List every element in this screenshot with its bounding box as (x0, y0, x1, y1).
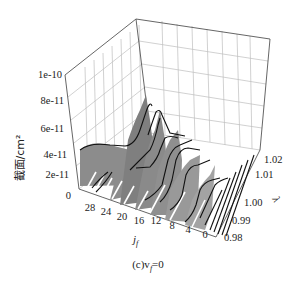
surface-plot: 1e-10 8e-11 6e-11 4e-11 2e-11 0 截面/cm² 2… (0, 0, 296, 285)
svg-text:8: 8 (169, 220, 174, 231)
svg-text:0: 0 (202, 229, 207, 240)
svg-text:6e-11: 6e-11 (40, 123, 64, 134)
x-axis-label: jf (131, 233, 140, 248)
svg-text:2e-11: 2e-11 (45, 169, 69, 180)
svg-text:24: 24 (101, 206, 112, 217)
z-axis-label: 截面/cm² (13, 135, 27, 182)
svg-text:8e-11: 8e-11 (40, 95, 64, 106)
svg-text:16: 16 (134, 215, 145, 226)
svg-text:1.01: 1.01 (255, 169, 273, 180)
z-axis-ticks: 1e-10 8e-11 6e-11 4e-11 2e-11 0 (38, 69, 71, 201)
svg-text:0.98: 0.98 (224, 232, 242, 243)
figure-caption: (c)vf=0 (0, 258, 296, 273)
svg-text:1e-10: 1e-10 (38, 69, 62, 80)
y-axis-label: λ (270, 193, 283, 204)
svg-text:1.02: 1.02 (264, 154, 282, 165)
svg-text:4: 4 (185, 224, 191, 235)
svg-text:0.99: 0.99 (232, 215, 250, 226)
svg-text:0: 0 (66, 190, 71, 201)
svg-text:20: 20 (117, 211, 128, 222)
svg-text:12: 12 (151, 215, 162, 226)
svg-text:28: 28 (85, 202, 96, 213)
svg-text:4e-11: 4e-11 (43, 149, 67, 160)
svg-text:1.00: 1.00 (244, 197, 262, 208)
